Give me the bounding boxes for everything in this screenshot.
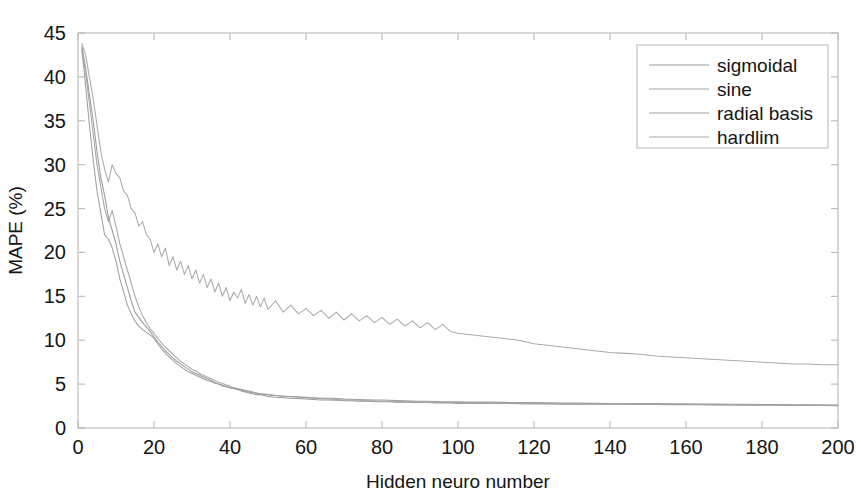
legend-label-hardlim[interactable]: hardlim [717, 127, 779, 148]
x-tick-label: 80 [371, 436, 393, 458]
x-tick-label: 100 [441, 436, 474, 458]
y-tick-label: 10 [44, 329, 66, 351]
y-tick-label: 25 [44, 198, 66, 220]
y-tick-label: 35 [44, 110, 66, 132]
y-axis-title: MAPE (%) [5, 186, 26, 275]
y-tick-label: 0 [55, 417, 66, 439]
x-tick-label: 120 [517, 436, 550, 458]
x-tick-label: 140 [593, 436, 626, 458]
y-tick-label: 15 [44, 285, 66, 307]
legend-label-sine[interactable]: sine [717, 79, 752, 100]
x-tick-label: 0 [72, 436, 83, 458]
y-tick-label: 30 [44, 154, 66, 176]
legend-label-sigmoidal[interactable]: sigmoidal [717, 55, 797, 76]
y-tick-label: 20 [44, 241, 66, 263]
mape-line-chart: 020406080100120140160180200 051015202530… [0, 0, 861, 500]
figure-canvas: 020406080100120140160180200 051015202530… [0, 0, 861, 500]
x-tick-label: 160 [669, 436, 702, 458]
x-tick-label: 20 [143, 436, 165, 458]
x-axis-title: Hidden neuro number [366, 471, 550, 492]
x-tick-label: 60 [295, 436, 317, 458]
legend-label-radial-basis[interactable]: radial basis [717, 103, 813, 124]
x-tick-label: 40 [219, 436, 241, 458]
x-tick-label: 200 [821, 436, 854, 458]
x-tick-label: 180 [745, 436, 778, 458]
y-tick-label: 45 [44, 22, 66, 44]
y-tick-label: 40 [44, 66, 66, 88]
y-tick-label: 5 [55, 373, 66, 395]
legend: sigmoidalsineradial basishardlim [637, 45, 828, 148]
